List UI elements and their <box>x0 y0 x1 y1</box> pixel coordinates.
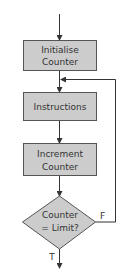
decision-label-line2: = Limit? <box>41 223 79 233</box>
node-label-line1: Increment <box>37 149 83 159</box>
decision-label-line1: Counter <box>42 210 78 220</box>
false-label: F <box>100 211 105 221</box>
node-label: Instructions <box>34 102 87 112</box>
node-label-line2: Counter <box>42 162 78 172</box>
node-label-line2: Counter <box>42 57 78 67</box>
node-label-line1: Initialise <box>41 45 79 55</box>
flowchart: Initialise Counter Instructions Incremen… <box>0 0 128 273</box>
node-initialise-counter: Initialise Counter <box>24 41 97 71</box>
node-instructions: Instructions <box>24 93 97 121</box>
node-decision-counter-limit: Counter = Limit? <box>23 196 96 249</box>
true-label: T <box>48 252 55 262</box>
node-increment-counter: Increment Counter <box>24 144 97 176</box>
